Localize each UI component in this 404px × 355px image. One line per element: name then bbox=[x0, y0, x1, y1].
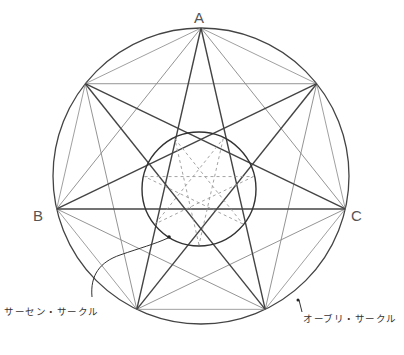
inner-circle bbox=[142, 132, 256, 246]
outer-leader-tip bbox=[297, 299, 300, 302]
vertex-label-b: B bbox=[33, 207, 43, 224]
vertex-label-c: C bbox=[351, 207, 362, 224]
outer-circle-label: オーブリ・サークル bbox=[303, 311, 397, 325]
outer-circle bbox=[53, 28, 349, 324]
inner-circle-label: サーセン・サークル bbox=[4, 304, 99, 318]
heptagram-diagram bbox=[0, 0, 404, 355]
outer-circle-leader bbox=[299, 300, 302, 312]
vertex-label-a: A bbox=[194, 9, 204, 26]
leader-arrow-tip bbox=[167, 235, 171, 239]
inner-dashed-star bbox=[145, 139, 254, 245]
